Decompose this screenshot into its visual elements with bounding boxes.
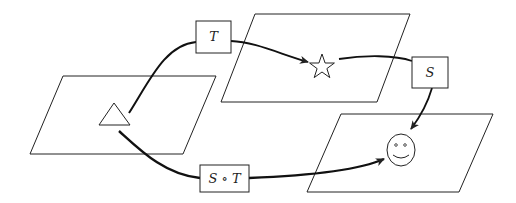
SoT-label-box: S ∘ T: [200, 165, 249, 192]
S-label: S: [426, 65, 435, 80]
arrow-S-to-smiley: [411, 88, 432, 129]
arrow-triangle-to-T: [129, 42, 196, 113]
SoT-label: S ∘ T: [208, 171, 242, 186]
arrow-SoT-to-smiley: [249, 159, 384, 178]
plane-target: [307, 114, 493, 192]
T-label: T: [209, 29, 219, 44]
T-label-box: T: [196, 21, 231, 53]
triangle-shape-icon: [99, 103, 130, 125]
star-shape-icon: [310, 54, 335, 78]
arrow-T-to-star: [231, 41, 308, 62]
smiley-face-icon: [387, 134, 415, 166]
S-label-box: S: [412, 57, 448, 88]
composition-diagram: T S S ∘ T: [0, 0, 516, 203]
arrow-star-to-S: [339, 56, 412, 61]
plane-middle: [221, 14, 410, 102]
